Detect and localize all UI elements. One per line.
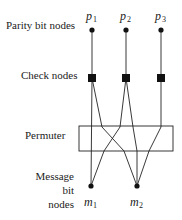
message-label-line2: bit [62, 184, 74, 196]
parity-node-label-p2: p 2 [119, 9, 131, 24]
edge-c2-m1 [91, 78, 126, 186]
svg-text:p: p [119, 9, 126, 23]
svg-text:3: 3 [162, 15, 166, 24]
message-node-m1 [88, 183, 93, 188]
svg-text:m: m [84, 195, 93, 209]
svg-text:2: 2 [127, 15, 131, 24]
message-label-line3: nodes [48, 198, 74, 210]
parity-node-p2 [123, 27, 128, 32]
check-node-2 [122, 74, 130, 82]
edges [91, 30, 161, 186]
parity-bit-nodes-label: Parity bit nodes [6, 19, 75, 31]
svg-text:1: 1 [93, 15, 97, 24]
permuter-box [79, 126, 173, 151]
parity-node-p3 [158, 27, 163, 32]
message-node-m2 [134, 183, 139, 188]
message-label-line1: Message [36, 170, 75, 182]
permuter-label: Permuter [25, 129, 66, 141]
edge-c1-m1 [91, 78, 92, 186]
check-node-3 [157, 74, 165, 82]
edge-c1-m2 [92, 78, 137, 186]
svg-text:2: 2 [139, 201, 143, 210]
parity-node-label-p1: p 1 [85, 9, 97, 24]
parity-node-label-p3: p 3 [154, 9, 166, 24]
check-nodes-label: Check nodes [21, 69, 78, 81]
parity-node-p1 [89, 27, 94, 32]
svg-text:m: m [130, 195, 139, 209]
check-node-1 [88, 74, 96, 82]
svg-text:1: 1 [93, 201, 97, 210]
message-node-label-m2: m 2 [130, 195, 143, 210]
svg-text:p: p [85, 9, 92, 23]
edge-c2-m2 [126, 78, 137, 186]
diagram-canvas: Parity bit nodes Check nodes Permuter Me… [0, 0, 182, 220]
edge-c3-m2 [137, 78, 161, 186]
svg-text:p: p [154, 9, 161, 23]
message-node-label-m1: m 1 [84, 195, 97, 210]
